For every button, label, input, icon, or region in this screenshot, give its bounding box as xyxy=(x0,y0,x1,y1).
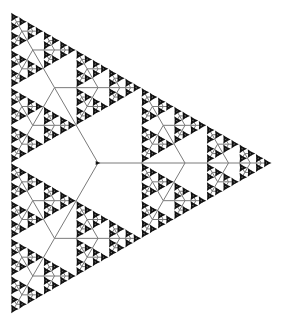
fractal-tree-diagram xyxy=(0,0,282,329)
